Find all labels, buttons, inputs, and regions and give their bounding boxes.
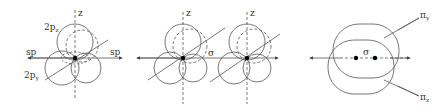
pi-y-leader-2 [384,18,419,38]
panel-molecule [310,18,419,96]
panel-two-atoms [137,12,280,104]
pi-y-label: πy [420,10,430,22]
sp-left-label: sp [26,47,37,57]
panel-single-atom [28,10,122,100]
2pz-label: 2pz [44,22,59,33]
nucleus-b [245,56,249,60]
nucleus-a [181,56,185,60]
nucleus-1 [354,56,358,60]
2py-label: 2py [24,70,40,82]
sp-hybridization-diagram: z 2pz sp sp 2py z z σ [0,0,432,112]
nucleus-dot [73,56,77,60]
nucleus-2 [373,56,377,60]
pi-z-leader-2 [384,80,419,96]
z-label: z [78,8,83,18]
sigma-label-overlap: σ [208,48,214,58]
sigma-label-molecule: σ [363,47,369,57]
sp-right-label: sp [110,47,121,57]
pz-lobe-top-back [66,30,98,62]
pi-z-label: πz [420,92,429,103]
z-label-a: z [186,8,191,18]
z-label-b: z [250,8,255,18]
